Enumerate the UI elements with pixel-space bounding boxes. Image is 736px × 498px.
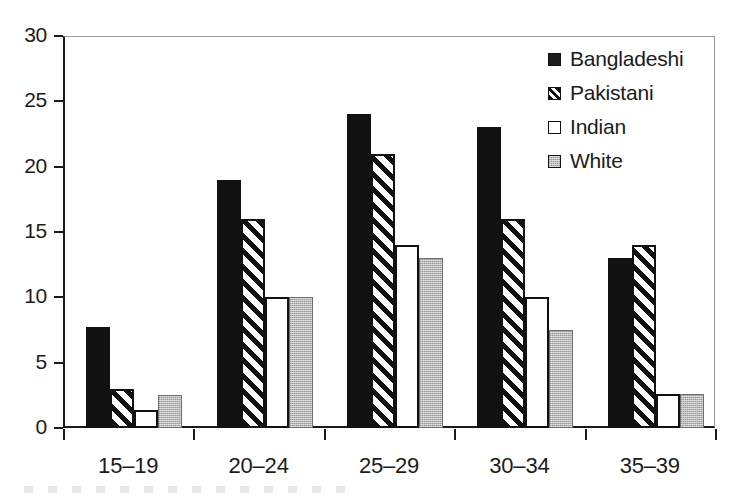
y-axis-tick-mark [54,166,63,168]
x-axis-tick-mark [193,429,195,440]
bar-bangladeshi-30-34 [477,127,501,428]
legend-item-indian: Indian [548,110,718,144]
x-axis-tick-label: 35–39 [620,453,680,479]
bar-pakistani-20-24 [241,219,265,428]
bar-indian-25-29 [395,245,419,428]
scan-artifact-strip [24,486,354,493]
x-axis-tick-mark [715,429,717,440]
y-axis-tick-label: 15 [24,219,47,243]
y-axis-tick-label: 25 [24,88,47,112]
x-axis-group-35-39: 35–39 [585,428,715,498]
y-axis-tick-label: 30 [24,23,47,47]
x-axis-tick-mark [454,429,456,440]
bar-white-30-34 [549,330,573,428]
bar-white-15-19 [158,395,182,428]
x-axis-tick-mark [324,429,326,440]
y-axis-tick-mark [54,362,63,364]
bar-bangladeshi-35-39 [608,258,632,428]
bar-pakistani-35-39 [632,245,656,428]
bar-indian-15-19 [134,410,158,428]
y-axis-tick-label: 10 [24,284,47,308]
y-axis-tick-label: 0 [36,415,47,439]
legend-item-label: Pakistani [570,81,653,105]
legend-item-label: Indian [570,115,626,139]
x-axis-group-30-34: 30–34 [454,428,584,498]
diagonal-hatch-swatch-icon [548,87,561,100]
stippled-gray-swatch-icon [548,155,561,168]
x-axis-tick-label: 20–24 [228,453,288,479]
bar-pakistani-30-34 [501,219,525,428]
x-axis-tick-mark [585,429,587,440]
bar-pakistani-25-29 [371,154,395,428]
solid-black-swatch-icon [548,53,561,66]
legend-item-white: White [548,144,718,178]
bar-pakistani-15-19 [110,389,134,428]
bar-white-35-39 [680,394,704,428]
y-axis-tick-label: 5 [36,350,47,374]
legend-item-label: Bangladeshi [570,47,683,71]
chart-legend: Bangladeshi Pakistani Indian White [548,42,718,178]
y-axis: 30 25 20 15 10 5 0 [0,0,63,498]
y-axis-tick-mark [54,296,63,298]
y-axis-tick-mark [54,231,63,233]
bar-white-20-24 [289,297,313,428]
bar-white-25-29 [419,258,443,428]
x-axis-tick-label: 30–34 [489,453,549,479]
bar-chart-figure: 30 25 20 15 10 5 0 15–1920–2425–29 [0,0,736,498]
open-white-swatch-icon [548,121,561,134]
x-axis-end-tick [715,428,717,498]
bar-indian-30-34 [525,297,549,428]
bar-bangladeshi-25-29 [347,114,371,428]
x-axis-tick-mark [63,429,65,440]
bar-bangladeshi-15-19 [86,327,110,428]
y-axis-tick-mark [54,100,63,102]
bar-bangladeshi-20-24 [217,180,241,428]
legend-item-pakistani: Pakistani [548,76,718,110]
y-axis-tick-mark [54,427,63,429]
legend-item-bangladeshi: Bangladeshi [548,42,718,76]
bar-indian-35-39 [656,394,680,428]
y-axis-tick-label: 20 [24,154,47,178]
bar-indian-20-24 [265,297,289,428]
x-axis-tick-label: 15–19 [98,453,158,479]
legend-item-label: White [570,149,623,173]
x-axis-tick-label: 25–29 [359,453,419,479]
y-axis-tick-mark [54,35,63,37]
